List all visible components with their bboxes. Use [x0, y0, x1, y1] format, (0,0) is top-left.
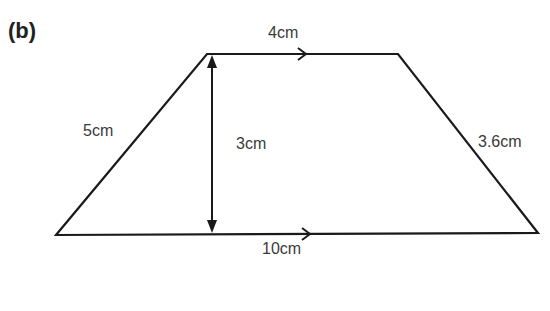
label-bottom: 10cm [262, 240, 301, 258]
diagram: (b) 4cm 5cm 3cm 3.6cm 10cm [0, 0, 550, 311]
label-top: 4cm [268, 24, 298, 42]
trapezium-figure [0, 0, 550, 311]
label-right: 3.6cm [478, 133, 522, 151]
height-arrow-down [207, 220, 217, 233]
label-height: 3cm [236, 135, 266, 153]
height-arrow-up [207, 55, 217, 68]
label-left: 5cm [83, 122, 113, 140]
trapezium-outline [56, 54, 538, 235]
